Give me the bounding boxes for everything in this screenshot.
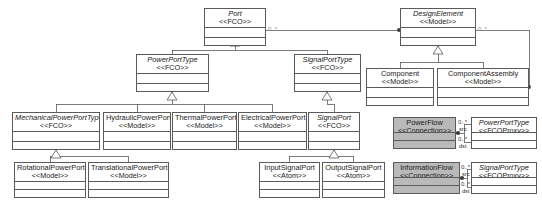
- class-stereotype: <<Model>>: [106, 122, 168, 130]
- class-attributes: [295, 74, 360, 84]
- class-stereotype: <<Model>>: [403, 18, 473, 26]
- role-label-informationflow-dst: dst: [462, 189, 469, 195]
- class-attributes: [205, 28, 265, 38]
- class-stereotype: <<FCO>>: [139, 64, 206, 72]
- class-stereotype: <<FCO>>: [311, 122, 357, 130]
- class-box-electricalpowerport[interactable]: ElectricalPowerPort <<Model>>: [238, 112, 307, 150]
- class-header: Port <<FCO>>: [205, 9, 265, 28]
- generalization-arrow-powerporttype: [167, 92, 177, 100]
- multiplicity-designelement-association: 0..*: [478, 26, 487, 32]
- class-header: SignalPortType <<FCOProxy>>: [472, 163, 536, 178]
- uml-class-diagram: Port <<FCO>> DesignElement <<Model>> Pow…: [0, 0, 542, 206]
- class-operations: [472, 141, 536, 148]
- generalization-arrow-designelement: [433, 46, 443, 54]
- class-operations: [260, 190, 319, 197]
- class-box-port[interactable]: Port <<FCO>>: [204, 8, 266, 46]
- generalization-arrow-mechanical: [51, 150, 61, 158]
- class-box-component[interactable]: Component <<Model>>: [366, 68, 434, 106]
- class-operations: [205, 38, 265, 45]
- class-stereotype: <<Model>>: [17, 172, 83, 180]
- role-label-powerflow-dst: dst: [459, 144, 466, 150]
- class-attributes: [394, 133, 455, 141]
- class-attributes: [137, 74, 208, 84]
- class-stereotype: <<FCO>>: [297, 64, 358, 72]
- class-attributes: [323, 182, 384, 190]
- class-operations: [89, 190, 168, 197]
- class-attributes: [89, 182, 168, 190]
- multiplicity-powerflow-dst: 0..*: [458, 136, 467, 142]
- class-operations: [401, 38, 475, 45]
- role-label-powerflow-src: src: [459, 127, 466, 133]
- class-stereotype: <<Model>>: [91, 172, 166, 180]
- class-attributes: [173, 132, 236, 142]
- role-label-informationflow-src: src: [462, 172, 469, 178]
- class-operations: [15, 190, 85, 197]
- class-box-powerflow[interactable]: PowerFlow <<Connection>>: [393, 117, 456, 149]
- class-header: Component <<Model>>: [367, 69, 433, 88]
- class-box-mechanicalpowerporttype[interactable]: MechanicalPowerPortType <<FCO>>: [12, 112, 100, 150]
- class-box-powerporttype[interactable]: PowerPortType <<FCO>>: [136, 54, 209, 92]
- class-header: ElectricalPowerPort <<Model>>: [239, 113, 306, 132]
- class-box-translationalpowerport[interactable]: TranslationalPowerPort <<Model>>: [88, 162, 169, 198]
- class-operations: [472, 186, 536, 193]
- class-stereotype: <<Atom>>: [262, 172, 317, 180]
- class-operations: [394, 141, 455, 148]
- class-operations: [394, 186, 459, 193]
- class-box-thermalpowerport[interactable]: ThermalPowerPort <<Model>>: [172, 112, 237, 150]
- class-operations: [295, 84, 360, 91]
- generalization-arrow-signalporttype: [322, 92, 332, 100]
- class-box-powerporttype-proxy[interactable]: PowerPortType <<FCOProxy>>: [471, 117, 537, 149]
- class-attributes: [394, 178, 459, 186]
- class-header: SignalPortType <<FCO>>: [295, 55, 360, 74]
- class-operations: [173, 142, 236, 149]
- class-operations: [323, 190, 384, 197]
- class-stereotype: <<Atom>>: [325, 172, 382, 180]
- class-attributes: [472, 133, 536, 141]
- class-operations: [104, 142, 170, 149]
- class-header: DesignElement <<Model>>: [401, 9, 475, 28]
- class-header: SignalPort <<FCO>>: [309, 113, 359, 132]
- class-attributes: [367, 88, 433, 98]
- class-header: MechanicalPowerPortType <<FCO>>: [13, 113, 99, 132]
- class-operations: [309, 142, 359, 149]
- class-box-signalport[interactable]: SignalPort <<FCO>>: [308, 112, 360, 150]
- class-stereotype: <<Model>>: [369, 78, 431, 86]
- class-box-hydraulicpowerport[interactable]: HydraulicPowerPort <<Model>>: [103, 112, 171, 150]
- multiplicity-port-association: 0..*: [268, 26, 277, 32]
- class-header: OutputSignalPort <<Atom>>: [323, 163, 384, 182]
- class-operations: [137, 84, 208, 91]
- class-attributes: [13, 132, 99, 142]
- class-attributes: [309, 132, 359, 142]
- class-box-designelement[interactable]: DesignElement <<Model>>: [400, 8, 476, 46]
- class-operations: [438, 98, 528, 105]
- class-stereotype: <<FCO>>: [15, 122, 97, 130]
- class-attributes: [260, 182, 319, 190]
- class-stereotype: <<Model>>: [241, 122, 304, 130]
- class-box-signalporttype[interactable]: SignalPortType <<FCO>>: [294, 54, 361, 92]
- class-box-outputsignalport[interactable]: OutputSignalPort <<Atom>>: [322, 162, 385, 198]
- multiplicity-powerflow-src: 0..*: [458, 119, 467, 125]
- class-header: InputSignalPort <<Atom>>: [260, 163, 319, 182]
- class-attributes: [239, 132, 306, 142]
- class-attributes: [401, 28, 475, 38]
- class-header: RotationalPowerPort <<Model>>: [15, 163, 85, 182]
- class-header: InformationFlow <<Connection>>: [394, 163, 459, 178]
- class-stereotype: <<Model>>: [175, 122, 234, 130]
- class-attributes: [438, 88, 528, 98]
- class-operations: [367, 98, 433, 105]
- class-box-signalporttype-proxy[interactable]: SignalPortType <<FCOProxy>>: [471, 162, 537, 194]
- class-attributes: [472, 178, 536, 186]
- class-header: ThermalPowerPort <<Model>>: [173, 113, 236, 132]
- class-box-rotationalpowerport[interactable]: RotationalPowerPort <<Model>>: [14, 162, 86, 198]
- class-header: PowerPortType <<FCO>>: [137, 55, 208, 74]
- multiplicity-informationflow-dst: 0..*: [461, 181, 470, 187]
- class-box-componentassembly[interactable]: ComponentAssembly <<Model>>: [437, 68, 529, 106]
- class-header: HydraulicPowerPort <<Model>>: [104, 113, 170, 132]
- class-header: PowerPortType <<FCOProxy>>: [472, 118, 536, 133]
- class-stereotype: <<FCO>>: [207, 18, 263, 26]
- class-attributes: [104, 132, 170, 142]
- class-operations: [239, 142, 306, 149]
- class-header: TranslationalPowerPort <<Model>>: [89, 163, 168, 182]
- class-box-informationflow[interactable]: InformationFlow <<Connection>>: [393, 162, 460, 194]
- class-box-inputsignalport[interactable]: InputSignalPort <<Atom>>: [259, 162, 320, 198]
